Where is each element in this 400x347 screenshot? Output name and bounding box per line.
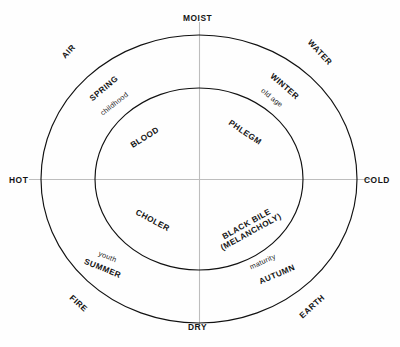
quality-label-cold: COLD [364, 176, 390, 185]
wheel-graphics [0, 0, 400, 347]
humour-wheel-diagram: MOIST DRY HOT COLD AIR WATER EARTH FIRE … [0, 0, 400, 347]
quality-label-hot: HOT [9, 176, 28, 185]
quality-label-dry: DRY [188, 323, 207, 332]
quality-label-moist: MOIST [183, 14, 212, 23]
